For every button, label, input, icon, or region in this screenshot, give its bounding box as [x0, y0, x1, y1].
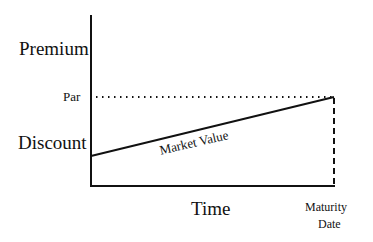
premium-label: Premium	[19, 38, 89, 60]
maturity-label-line1: Maturity	[305, 200, 347, 215]
bond-value-diagram: Premium Par Discount Market Value Time M…	[0, 0, 373, 242]
discount-label: Discount	[18, 132, 87, 154]
market-value-line	[91, 97, 334, 156]
par-label: Par	[63, 89, 80, 105]
maturity-label-line2: Date	[318, 217, 341, 232]
time-axis-label: Time	[191, 198, 230, 220]
